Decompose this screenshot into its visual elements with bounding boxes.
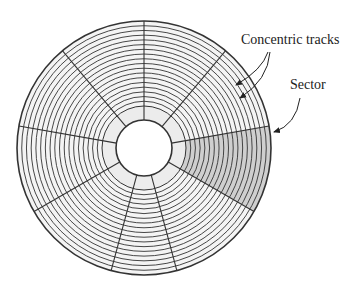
center-hole: [116, 120, 172, 176]
tracks-label: Concentric tracks: [241, 32, 339, 48]
sector-label: Sector: [290, 77, 326, 93]
sector-arrow: [274, 98, 300, 132]
